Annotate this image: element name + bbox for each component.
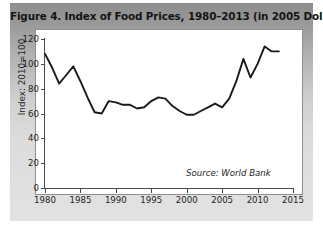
x-tick-mark — [293, 189, 294, 193]
x-tick-label: 2015 — [282, 195, 304, 205]
source-note: Source: World Bank — [186, 168, 271, 178]
x-tick-mark — [258, 189, 259, 193]
x-tick-mark — [222, 189, 223, 193]
x-tick-mark — [187, 189, 188, 193]
x-axis-line — [44, 188, 294, 189]
y-tick-mark — [41, 89, 45, 90]
y-tick-label: 20 — [13, 158, 39, 168]
y-tick-mark — [41, 114, 45, 115]
figure-title: Figure 4. Index of Food Prices, 1980–201… — [10, 10, 313, 22]
x-tick-label: 1985 — [69, 195, 91, 205]
x-tick-mark — [151, 189, 152, 193]
y-tick-mark — [41, 163, 45, 164]
x-tick-label: 2010 — [247, 195, 269, 205]
y-tick-mark — [41, 138, 45, 139]
y-tick-mark — [41, 64, 45, 65]
x-tick-label: 1995 — [140, 195, 162, 205]
y-tick-label: 0 — [13, 183, 39, 193]
x-tick-label: 1990 — [105, 195, 127, 205]
x-tick-label: 2005 — [211, 195, 233, 205]
x-tick-label: 1980 — [34, 195, 56, 205]
x-tick-mark — [80, 189, 81, 193]
y-tick-mark — [41, 39, 45, 40]
y-tick-label: 40 — [13, 133, 39, 143]
y-axis-title: Index: 2010=100 — [17, 22, 27, 132]
x-tick-mark — [116, 189, 117, 193]
x-tick-label: 2000 — [176, 195, 198, 205]
x-tick-mark — [45, 189, 46, 193]
